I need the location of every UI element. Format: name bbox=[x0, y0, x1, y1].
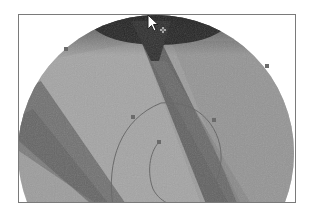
arrow-plus-cursor-icon bbox=[147, 14, 169, 36]
path-handle[interactable] bbox=[131, 115, 135, 119]
path-handle[interactable] bbox=[64, 47, 68, 51]
path-handle[interactable] bbox=[207, 185, 211, 189]
canvas-frame[interactable] bbox=[18, 14, 296, 203]
magnified-view[interactable] bbox=[19, 15, 295, 202]
path-handle[interactable] bbox=[212, 118, 216, 122]
magnified-image bbox=[19, 15, 296, 203]
path-handle[interactable] bbox=[157, 140, 161, 144]
path-handle[interactable] bbox=[265, 64, 269, 68]
